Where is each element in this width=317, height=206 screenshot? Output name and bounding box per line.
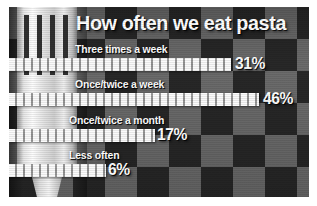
row-bar — [9, 58, 231, 71]
row-label: Three times a week — [75, 43, 167, 55]
row-bar — [9, 129, 155, 142]
row-label: Once/twice a week — [75, 78, 164, 90]
chart-rows: Three times a week 31% Once/twice a week… — [9, 7, 309, 197]
row-value: 6% — [108, 160, 130, 180]
row-value: 17% — [157, 125, 187, 145]
pasta-frequency-infographic: Three times a week 31% Once/twice a week… — [0, 0, 317, 206]
row-value: 46% — [263, 89, 293, 109]
poster-artwork: Three times a week 31% Once/twice a week… — [9, 7, 309, 197]
row-bar — [9, 164, 106, 177]
chart-title: How often we eat pasta — [76, 11, 286, 35]
row-value: 31% — [235, 54, 265, 74]
row-label: Once/twice a month — [69, 114, 164, 126]
row-bar — [9, 93, 259, 106]
